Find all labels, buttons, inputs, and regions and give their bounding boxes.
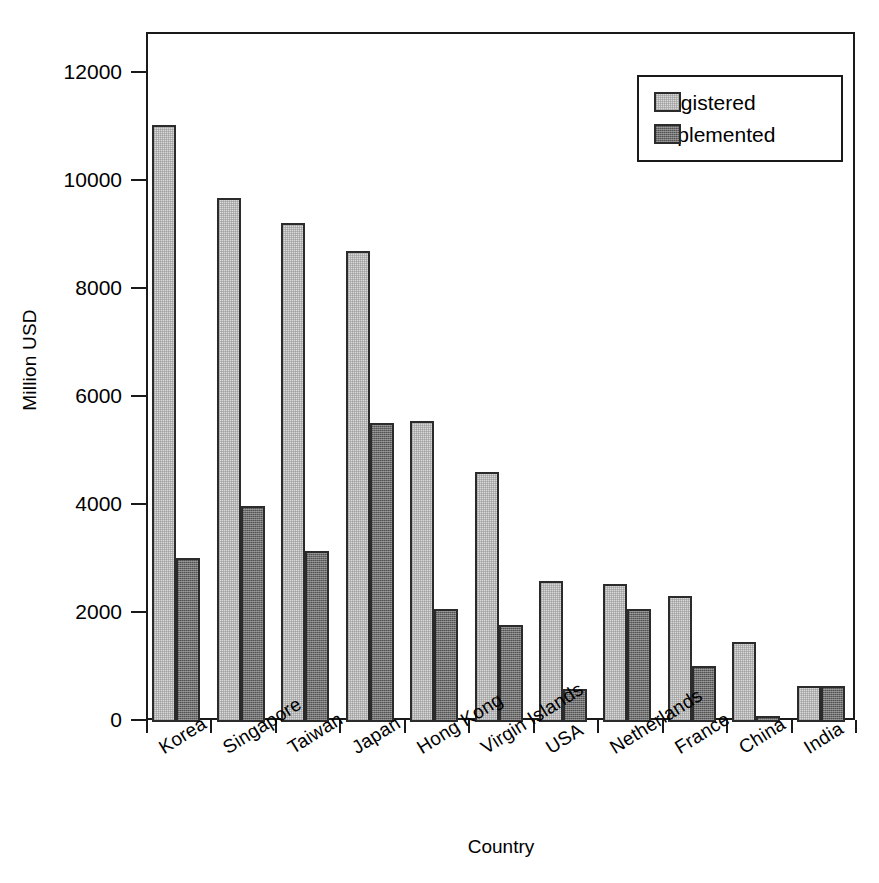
bar-implemented <box>176 558 200 722</box>
legend-swatch-registered-icon <box>654 92 681 112</box>
legend-item-registered: Registered <box>639 86 841 118</box>
bar-registered <box>475 472 499 722</box>
y-axis-tick-label: 6000 <box>0 383 122 409</box>
bar-registered <box>732 642 756 722</box>
bar-implemented <box>370 423 394 722</box>
x-axis-tick-mark <box>855 720 857 733</box>
y-axis-tick-label: 8000 <box>0 275 122 301</box>
y-axis-tick-mark <box>131 395 146 397</box>
x-axis-category-label: India <box>800 718 847 759</box>
bar-registered <box>410 421 434 722</box>
y-axis-tick-label: 12000 <box>0 59 122 85</box>
bar-registered <box>152 125 176 722</box>
x-axis-tick-mark <box>404 720 406 733</box>
bar-registered <box>217 198 241 722</box>
y-axis-tick-mark <box>131 719 146 721</box>
y-axis-tick-label: 2000 <box>0 599 122 625</box>
bar-implemented <box>241 506 265 722</box>
bar-implemented <box>821 686 845 722</box>
x-axis-title: Country <box>146 836 856 858</box>
y-axis-tick-label: 0 <box>0 707 122 733</box>
bar-registered <box>281 223 305 722</box>
y-axis-tick-mark <box>131 503 146 505</box>
y-axis-tick-mark <box>131 179 146 181</box>
y-axis-tick-mark <box>131 71 146 73</box>
y-axis-tick-mark <box>131 287 146 289</box>
bar-registered <box>797 686 821 722</box>
y-axis-tick-label: 10000 <box>0 167 122 193</box>
x-axis-category-label: USA <box>542 719 587 759</box>
y-axis-tick-mark <box>131 611 146 613</box>
bar-implemented <box>627 609 651 722</box>
x-axis-tick-mark <box>791 720 793 733</box>
x-axis-tick-mark <box>597 720 599 733</box>
legend-item-implemented: Implemented <box>639 118 841 150</box>
bar-registered <box>346 251 370 722</box>
bar-chart-figure: Million USD 020004000600080001000012000 … <box>0 0 879 883</box>
x-axis-tick-mark <box>146 720 148 733</box>
y-axis-tick-label: 4000 <box>0 491 122 517</box>
legend-swatch-implemented-icon <box>654 124 681 144</box>
bar-implemented <box>305 551 329 722</box>
chart-legend: Registered Implemented <box>637 75 843 162</box>
bar-registered <box>603 584 627 722</box>
bar-implemented <box>434 609 458 722</box>
